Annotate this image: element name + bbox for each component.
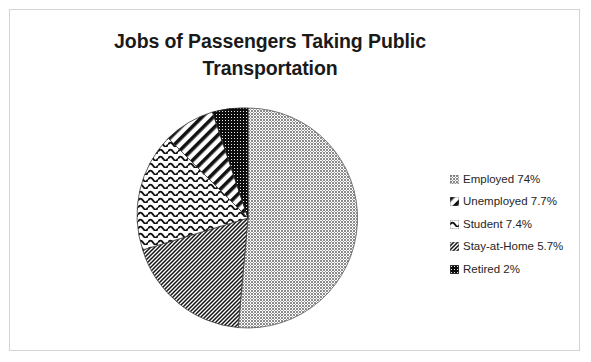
legend-label-employed: Employed 74% bbox=[463, 174, 540, 186]
legend-label-unemployed: Unemployed 7.7% bbox=[463, 196, 557, 208]
legend-swatch-unemployed-icon bbox=[450, 197, 459, 206]
chart-title: Jobs of Passengers Taking Public Transpo… bbox=[70, 28, 470, 82]
pie-chart-svg bbox=[128, 98, 368, 338]
legend-item-unemployed: Unemployed 7.7% bbox=[450, 191, 585, 214]
legend-swatch-student-icon bbox=[450, 220, 459, 229]
chart-legend: Employed 74% Unemployed 7.7% Student 7.4… bbox=[450, 168, 585, 281]
legend-swatch-retired-icon bbox=[450, 265, 459, 274]
pie-chart-plot-area bbox=[128, 98, 368, 338]
chart-title-line-1: Jobs of Passengers Taking Public bbox=[114, 30, 426, 52]
legend-swatch-stay-at-home-icon bbox=[450, 242, 459, 251]
legend-item-stay-at-home: Stay-at-Home 5.7% bbox=[450, 236, 585, 259]
chart-title-line-2: Transportation bbox=[202, 57, 337, 79]
legend-item-employed: Employed 74% bbox=[450, 168, 585, 191]
legend-label-retired: Retired 2% bbox=[463, 264, 520, 276]
pie-slice-employed bbox=[238, 108, 357, 328]
legend-item-student: Student 7.4% bbox=[450, 213, 585, 236]
legend-swatch-employed-icon bbox=[450, 175, 459, 184]
legend-label-stay-at-home: Stay-at-Home 5.7% bbox=[463, 241, 563, 253]
legend-label-student: Student 7.4% bbox=[463, 219, 532, 231]
chart-frame: Jobs of Passengers Taking Public Transpo… bbox=[9, 9, 580, 351]
chart-screenshot: Jobs of Passengers Taking Public Transpo… bbox=[0, 0, 591, 362]
legend-item-retired: Retired 2% bbox=[450, 258, 585, 281]
